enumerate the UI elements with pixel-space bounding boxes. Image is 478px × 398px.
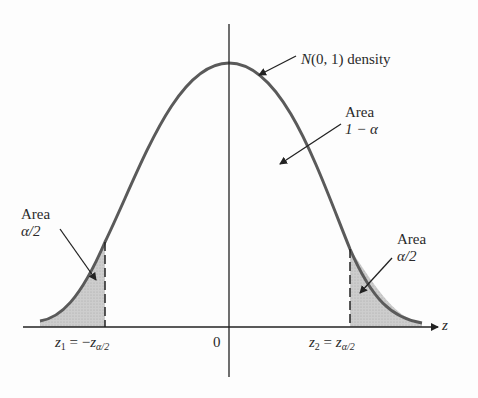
- center-area-line2: 1 − α: [345, 121, 378, 138]
- left-tail-shaded-region: [40, 242, 105, 327]
- z-axis-label: z: [442, 317, 448, 334]
- curve-label-n: N: [301, 51, 311, 67]
- center-area-line1: Area: [345, 104, 378, 121]
- curve-label-rest: (0, 1) density: [311, 51, 391, 67]
- left-tail-pointer-arrow: [60, 229, 96, 280]
- left-tail-line2: α/2: [21, 223, 50, 240]
- z2-tick-label: z2 = zα/2: [309, 334, 355, 355]
- right-tail-label: Area α/2: [397, 231, 426, 265]
- z1-tick-label: z1 = −zα/2: [55, 334, 109, 355]
- normal-distribution-diagram: N(0, 1) density Area 1 − α Area α/2 Area…: [0, 0, 478, 398]
- origin-label: 0: [213, 334, 221, 351]
- right-tail-line1: Area: [397, 231, 426, 248]
- center-area-label: Area 1 − α: [345, 104, 378, 138]
- z2-eq: =: [320, 334, 336, 350]
- curve-label: N(0, 1) density: [301, 51, 391, 68]
- z1-eq: = −: [66, 334, 90, 350]
- center-area-pointer-arrow: [280, 124, 341, 164]
- density-pointer-arrow: [259, 56, 296, 75]
- left-tail-line1: Area: [21, 206, 50, 223]
- right-tail-line2: α/2: [397, 248, 426, 265]
- left-tail-label: Area α/2: [21, 206, 50, 240]
- z1-rhs-sub: α/2: [96, 341, 109, 352]
- z2-rhs-sub: α/2: [342, 341, 355, 352]
